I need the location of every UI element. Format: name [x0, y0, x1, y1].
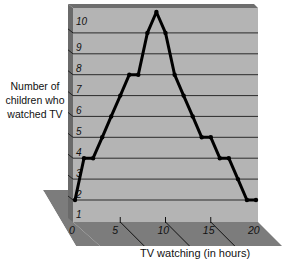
panel-top-edge: [68, 4, 258, 8]
line-chart: 12345678910 05101520: [0, 0, 289, 263]
svg-text:10: 10: [158, 224, 170, 236]
svg-text:4: 4: [76, 147, 82, 158]
svg-text:15: 15: [203, 224, 215, 236]
x-axis-label: TV watching (in hours): [140, 247, 250, 259]
svg-text:5: 5: [112, 224, 118, 236]
y-axis-label-line: Number of: [2, 79, 68, 93]
svg-text:7: 7: [76, 84, 82, 95]
y-axis-label-line: watched TV: [2, 107, 68, 121]
svg-text:10: 10: [76, 16, 88, 27]
y-axis-label-line: children who: [2, 93, 68, 107]
svg-text:5: 5: [76, 126, 82, 137]
svg-text:9: 9: [76, 42, 82, 53]
svg-text:1: 1: [76, 209, 82, 220]
chart-panel: [73, 8, 258, 222]
svg-text:6: 6: [76, 105, 82, 116]
svg-text:0: 0: [69, 224, 75, 236]
y-axis-label: Number of children who watched TV: [2, 79, 68, 121]
svg-text:20: 20: [247, 224, 260, 236]
svg-text:8: 8: [76, 63, 82, 74]
